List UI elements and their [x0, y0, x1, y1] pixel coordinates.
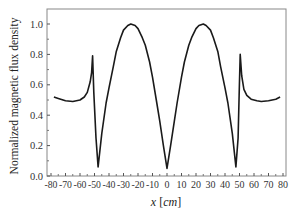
x-tick-label: 0	[165, 179, 170, 190]
y-tick-label: 1.0	[30, 19, 43, 30]
y-tick-label: 0.8	[30, 49, 43, 60]
x-tick-label: 10	[177, 179, 187, 190]
x-tick-label: 20	[191, 179, 201, 190]
x-tick-label: -10	[146, 179, 159, 190]
plot-frame	[47, 9, 286, 176]
y-axis-title: Normalized magnetic flux density	[8, 17, 21, 174]
x-tick-label: -50	[88, 179, 101, 190]
x-tick-label: -40	[103, 179, 116, 190]
x-tick-label: -70	[59, 179, 72, 190]
flux-density-curve	[54, 24, 280, 168]
x-tick-label: 70	[264, 179, 274, 190]
line-chart: 0.00.20.40.60.81.0 -80-70-60-50-40-30-20…	[0, 0, 295, 217]
y-tick-label: 0.4	[30, 110, 44, 121]
x-tick-label: -20	[132, 179, 145, 190]
y-tick-label: 0.6	[30, 79, 43, 90]
x-tick-label: 60	[249, 179, 259, 190]
x-tick-label: 80	[278, 179, 288, 190]
x-axis-title: x [cm]	[150, 195, 181, 209]
x-tick-label: -60	[74, 179, 87, 190]
x-tick-label: 40	[220, 179, 230, 190]
y-tick-label: 0.2	[30, 140, 43, 151]
x-tick-label: 50	[235, 179, 245, 190]
x-tick-label: -30	[117, 179, 130, 190]
x-tick-label: 30	[206, 179, 216, 190]
y-tick-label: 0.0	[30, 171, 43, 182]
x-tick-label: -80	[45, 179, 58, 190]
